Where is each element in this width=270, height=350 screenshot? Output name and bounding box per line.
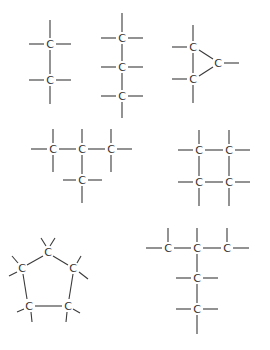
carbon-atom-label: C bbox=[78, 143, 86, 156]
carbon-atom-label: C bbox=[193, 242, 201, 255]
carbon-atom-label: C bbox=[225, 144, 233, 157]
bond-line bbox=[27, 256, 43, 265]
carbon-atom-label: C bbox=[223, 242, 231, 255]
bond-line bbox=[31, 312, 32, 322]
bond-line bbox=[79, 272, 88, 279]
carbon-atom-label: C bbox=[225, 176, 233, 189]
molecule-isobutane: CCCC bbox=[31, 129, 132, 203]
bond-line bbox=[199, 50, 213, 59]
carbon-atom-label: C bbox=[107, 143, 115, 156]
bond-line bbox=[73, 309, 80, 313]
carbon-atom-label: C bbox=[64, 300, 72, 313]
bond-line bbox=[53, 256, 68, 265]
structural-formulas-diagram: CCCCCCCCCCCCCCCCCCCCCCCCCC bbox=[0, 0, 270, 350]
bond-line bbox=[69, 274, 73, 299]
bond-line bbox=[17, 309, 24, 312]
carbon-atom-label: C bbox=[118, 90, 126, 103]
carbon-atom-label: C bbox=[118, 32, 126, 45]
bond-line bbox=[199, 67, 213, 76]
molecule-2-2-dimethylbutane-like: CCCCC bbox=[146, 228, 249, 334]
bond-line bbox=[9, 272, 17, 276]
carbon-atom-label: C bbox=[193, 303, 201, 316]
molecule-ethane: CC bbox=[29, 20, 71, 104]
carbon-atom-label: C bbox=[214, 57, 222, 70]
molecule-cyclopropane: CCC bbox=[172, 25, 239, 103]
carbon-atom-label: C bbox=[49, 143, 57, 156]
carbon-atom-label: C bbox=[195, 144, 203, 157]
molecule-cyclopentane: CCCCC bbox=[9, 238, 88, 322]
carbon-atom-label: C bbox=[69, 262, 77, 275]
carbon-atom-label: C bbox=[46, 38, 54, 51]
bond-line bbox=[41, 238, 46, 246]
carbon-atom-label: C bbox=[118, 61, 126, 74]
molecule-cyclobutane: CCCC bbox=[178, 130, 250, 206]
bond-line bbox=[50, 238, 55, 246]
carbon-atom-label: C bbox=[189, 73, 197, 86]
carbon-atom-label: C bbox=[18, 262, 26, 275]
carbon-atom-label: C bbox=[193, 272, 201, 285]
carbon-atom-label: C bbox=[78, 174, 86, 187]
bond-line bbox=[77, 256, 81, 263]
carbon-atom-label: C bbox=[44, 246, 52, 259]
carbon-atom-label: C bbox=[164, 242, 172, 255]
carbon-atom-label: C bbox=[46, 74, 54, 87]
carbon-atom-label: C bbox=[195, 176, 203, 189]
molecule-drawings: CCCCCCCCCCCCCCCCCCCCCCCCCC bbox=[0, 0, 270, 350]
bond-line bbox=[23, 274, 27, 299]
bond-line bbox=[12, 256, 18, 263]
bond-line bbox=[66, 312, 67, 322]
molecule-propane: CCC bbox=[101, 13, 143, 118]
carbon-atom-label: C bbox=[189, 41, 197, 54]
carbon-atom-label: C bbox=[25, 300, 33, 313]
